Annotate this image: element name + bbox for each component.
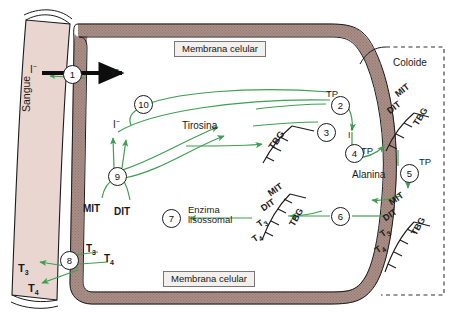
molecule-iodide-cell: I− [112,66,119,78]
molecule-mit-cell: MIT [83,203,100,214]
path-step2-out [348,107,352,130]
step-circle-6[interactable]: 6 [331,207,350,226]
molecule-t3-blood: T3 [18,262,29,276]
step-circle-5[interactable]: 5 [400,164,419,183]
step-circle-10[interactable]: 10 [134,95,153,114]
molecule-iodine-atomic: I° [348,128,353,140]
step-circle-3[interactable]: 3 [317,123,336,142]
molecule-tirosina: Tirosina [182,120,217,131]
molecule-dit-cell: DIT [114,206,130,217]
label-tp-step5: TP [419,156,431,167]
step-circle-1[interactable]: 1 [63,65,82,84]
membrane-label-top: Membrana celular [174,41,266,57]
cell-membrane-band [70,24,396,304]
molecule-t3-cell: T3 [86,243,96,256]
step-circle-2[interactable]: 2 [331,96,350,115]
region-label-sangue: Sangue [20,76,32,112]
step-circle-9[interactable]: 9 [108,167,127,186]
molecule-t4-cell: T4 [104,253,114,266]
path-tyrosine-right [253,122,318,126]
path-to-tbg [186,144,262,146]
membrane-label-bottom: Membrana celular [163,271,255,287]
step-circle-4[interactable]: 4 [345,144,364,163]
step-circle-8[interactable]: 8 [60,251,79,270]
label-enzima-lisossomal: Enzima lisossomal [188,205,232,225]
region-label-coloide: Coloide [393,57,427,68]
molecule-t4-blood: T4 [28,282,39,296]
molecule-iodide-mid: I− [113,118,120,130]
thyroid-hormone-synthesis-diagram: { "diagram": { "title": "Sintese dos hor… [0,0,451,313]
path-to-step2 [256,104,326,109]
molecule-alanina: Alanina [352,169,385,180]
molecule-iodide-blood: I− [30,63,37,75]
step-circle-7[interactable]: 7 [162,209,181,228]
